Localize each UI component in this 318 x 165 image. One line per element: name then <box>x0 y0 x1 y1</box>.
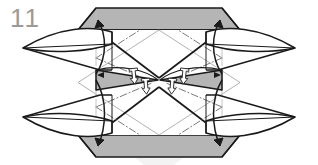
origami-step-figure: 11 <box>0 0 318 165</box>
step-number: 11 <box>10 3 41 33</box>
bottom-gray-band <box>78 135 240 157</box>
origami-diagram-canvas: 11 <box>0 0 318 165</box>
